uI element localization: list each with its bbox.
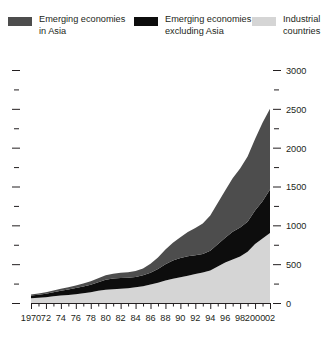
x-tick-label-1984: 84 [130,313,140,323]
x-tick-label-1998: 98 [235,313,245,323]
x-tick-label-1992: 92 [190,313,200,323]
x-tick-label-1974: 74 [56,313,66,323]
legend-label-emerging-ex-asia: Emerging economies excluding Asia [165,14,251,37]
x-tick-label-1986: 86 [145,313,155,323]
chart-legend: Emerging economies in Asia Emerging econ… [0,0,328,46]
x-tick-label-1976: 76 [71,313,81,323]
legend-swatch-industrial [252,17,276,26]
y-tick-label-2500: 2500 [286,105,306,115]
stacked-area-chart: 0500100015002000250030001970727476788082… [0,52,328,340]
x-tick-label-1980: 80 [101,313,111,323]
legend-item-emerging-asia: Emerging economies in Asia [8,14,125,37]
chart-plot-area: 0500100015002000250030001970727476788082… [0,52,328,340]
y-tick-label-3000: 3000 [286,66,306,76]
x-tick-label-2000: 2000 [245,313,265,323]
x-tick-label-1988: 88 [160,313,170,323]
x-tick-label-1990: 90 [175,313,185,323]
legend-item-emerging-ex-asia: Emerging economies excluding Asia [134,14,251,37]
x-tick-label-1996: 96 [220,313,230,323]
x-tick-label-1994: 94 [205,313,215,323]
x-tick-label-1972: 72 [41,313,51,323]
y-tick-label-2000: 2000 [286,144,306,154]
legend-label-industrial: Industrial countries [283,14,320,37]
legend-item-industrial: Industrial countries [252,14,320,37]
x-tick-label-1970: 1970 [21,313,41,323]
legend-swatch-emerging-asia [8,17,32,26]
y-tick-label-500: 500 [286,260,301,270]
x-tick-label-1982: 82 [116,313,126,323]
x-tick-label-2002: 02 [265,313,275,323]
y-tick-label-1500: 1500 [286,182,306,192]
legend-label-emerging-asia: Emerging economies in Asia [39,14,125,37]
y-tick-label-0: 0 [286,299,291,309]
x-tick-label-1978: 78 [86,313,96,323]
legend-swatch-emerging-ex-asia [134,17,158,26]
y-tick-label-1000: 1000 [286,221,306,231]
chart-root: Emerging economies in Asia Emerging econ… [0,0,328,340]
